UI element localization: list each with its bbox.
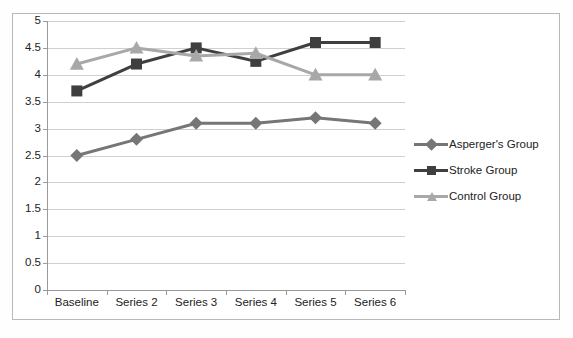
gridline	[47, 48, 405, 49]
legend-swatch-stroke	[414, 164, 448, 176]
y-axis-tick	[43, 263, 48, 264]
y-axis-tick-label: 3.5	[7, 96, 41, 108]
x-axis-tick-label: Series 3	[166, 297, 226, 309]
y-axis-tick-label: 1	[7, 230, 41, 242]
legend-item-control[interactable]: Control Group	[414, 183, 564, 209]
y-axis-tick-label: 2	[7, 176, 41, 188]
y-axis-tick	[43, 21, 48, 22]
x-axis-tick	[47, 290, 48, 295]
x-axis-tick-label: Series 2	[107, 297, 167, 309]
y-axis-tick-label: 0	[7, 284, 41, 296]
x-axis-tick-label: Series 5	[286, 297, 346, 309]
gridline	[47, 129, 405, 130]
square-marker-icon	[427, 166, 436, 175]
gridline	[47, 236, 405, 237]
x-axis-tick-label: Series 4	[226, 297, 286, 309]
y-axis-tick	[43, 102, 48, 103]
gridline	[47, 182, 405, 183]
x-axis-tick-label: Baseline	[47, 297, 107, 309]
y-axis-tick-label: 0.5	[7, 257, 41, 269]
chart-figure: 54.543.532.521.510.50 BaselineSeries 2Se…	[0, 0, 573, 338]
legend-swatch-aspergers	[414, 138, 448, 150]
gridline	[47, 102, 405, 103]
gridline	[47, 156, 405, 157]
y-axis-tick	[43, 209, 48, 210]
y-axis-tick	[43, 48, 48, 49]
x-axis-tick	[226, 290, 227, 295]
gridline	[47, 75, 405, 76]
y-axis-tick-label: 1.5	[7, 203, 41, 215]
gridline	[47, 263, 405, 264]
legend-label-stroke: Stroke Group	[449, 164, 517, 176]
y-axis-tick-label: 3	[7, 123, 41, 135]
legend-label-aspergers: Asperger's Group	[449, 138, 539, 150]
y-axis-tick	[43, 129, 48, 130]
diamond-marker-icon	[425, 138, 438, 151]
legend-item-aspergers[interactable]: Asperger's Group	[414, 131, 564, 157]
triangle-marker-icon	[427, 192, 437, 201]
y-axis-tick-label: 4.5	[7, 42, 41, 54]
legend-label-control: Control Group	[449, 190, 521, 202]
y-axis-tick-label: 5	[7, 15, 41, 27]
y-axis-tick	[43, 156, 48, 157]
gridline	[47, 21, 405, 22]
y-axis-tick-label: 2.5	[7, 150, 41, 162]
y-axis-tick	[43, 236, 48, 237]
x-axis-tick	[405, 290, 406, 295]
legend-swatch-control	[414, 190, 448, 202]
y-axis-tick	[43, 182, 48, 183]
legend-item-stroke[interactable]: Stroke Group	[414, 157, 564, 183]
x-axis-tick	[286, 290, 287, 295]
y-axis-tick	[43, 75, 48, 76]
y-axis-tick-label: 4	[7, 69, 41, 81]
gridline	[47, 209, 405, 210]
x-axis-tick	[107, 290, 108, 295]
chart-legend: Asperger's Group Stroke Group Control Gr…	[414, 131, 564, 209]
y-axis-labels: 54.543.532.521.510.50	[0, 0, 41, 338]
x-axis-tick	[166, 290, 167, 295]
plot-area	[47, 21, 405, 290]
x-axis-tick-label: Series 6	[345, 297, 405, 309]
x-axis-tick	[345, 290, 346, 295]
